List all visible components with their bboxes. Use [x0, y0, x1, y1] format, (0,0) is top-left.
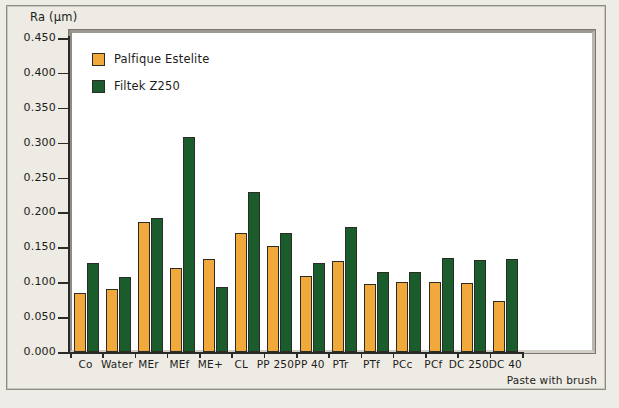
y-axis-tick-label: 0.400 — [4, 66, 56, 79]
y-axis-tick — [58, 317, 68, 319]
bar-group — [393, 38, 425, 352]
bar — [429, 282, 441, 352]
y-axis-tick — [58, 178, 68, 180]
y-axis-tick-label: 0.150 — [4, 240, 56, 253]
bar — [474, 260, 486, 352]
bar — [506, 259, 518, 352]
x-axis-category-label: PCc — [387, 358, 418, 376]
x-axis-caption: Paste with brush — [507, 374, 597, 386]
y-axis-title: Ra (μm) — [30, 10, 77, 24]
bar-group — [296, 38, 328, 352]
y-axis-tick-label: 0.300 — [4, 136, 56, 149]
legend-entry-0: Palfique Estelite — [92, 52, 209, 66]
bar — [138, 222, 150, 352]
y-axis-tick-label: 0.050 — [4, 310, 56, 323]
bar-group — [361, 38, 393, 352]
bar — [280, 233, 292, 352]
bar-group — [328, 38, 360, 352]
y-axis-tick — [58, 212, 68, 214]
bar — [332, 261, 344, 352]
bar — [409, 272, 421, 352]
x-axis-category-label: PTr — [325, 358, 356, 376]
y-axis-tick — [58, 38, 68, 40]
x-axis-category-label: PTf — [356, 358, 387, 376]
x-axis-category-label: Co — [70, 358, 101, 376]
legend-swatch-icon-palfique-estelite — [92, 53, 105, 66]
bar-group — [231, 38, 263, 352]
x-axis-category-label: PCf — [418, 358, 449, 376]
bar — [203, 259, 215, 352]
bar — [119, 277, 131, 352]
y-axis-tick-label: 0.350 — [4, 101, 56, 114]
bar — [364, 284, 376, 352]
bar — [248, 192, 260, 352]
legend-swatch-icon-filtek-z250 — [92, 80, 105, 93]
figure-container: Ra (μm) 0.4500.4000.3500.3000.2500.2000.… — [0, 0, 619, 408]
bar-group — [264, 38, 296, 352]
bar — [235, 233, 247, 352]
y-axis-tick — [58, 352, 68, 354]
bar — [377, 272, 389, 352]
bar — [461, 283, 473, 352]
bar — [267, 246, 279, 352]
x-axis-category-label: MEr — [133, 358, 164, 376]
y-axis-tick-label: 0.200 — [4, 205, 56, 218]
y-axis-tick — [58, 108, 68, 110]
x-axis-category-label: MEf — [164, 358, 195, 376]
bar — [183, 137, 195, 352]
bar — [396, 282, 408, 352]
legend-label-0: Palfique Estelite — [114, 52, 209, 66]
x-axis-category-label: PP 40 — [294, 358, 325, 376]
y-axis-tick — [58, 143, 68, 145]
x-axis-category-label: PP 250 — [257, 358, 294, 376]
legend-label-1: Filtek Z250 — [114, 79, 180, 93]
bar — [493, 301, 505, 352]
y-axis-tick — [58, 73, 68, 75]
bar-group — [425, 38, 457, 352]
y-axis-tick — [58, 282, 68, 284]
bar — [345, 227, 357, 352]
y-axis-tick-label: 0.250 — [4, 171, 56, 184]
bar-group — [457, 38, 489, 352]
legend-entry-1: Filtek Z250 — [92, 79, 209, 93]
bar — [216, 287, 228, 352]
y-axis-tick-label: 0.450 — [4, 31, 56, 44]
bar — [170, 268, 182, 352]
x-axis-category-label: CL — [226, 358, 257, 376]
bar — [74, 293, 86, 352]
bar — [87, 263, 99, 352]
bar — [151, 218, 163, 352]
bar-group — [490, 38, 522, 352]
y-axis-tick — [58, 247, 68, 249]
bar — [442, 258, 454, 352]
y-axis-tick-label: 0.100 — [4, 275, 56, 288]
x-axis-category-label: ME+ — [195, 358, 226, 376]
x-axis-category-labels: CoWaterMErMEfME+CLPP 250PP 40PTrPTfPCcPC… — [70, 358, 522, 376]
bar — [313, 263, 325, 352]
chart-legend: Palfique Estelite Filtek Z250 — [92, 52, 209, 106]
x-axis-tick — [522, 352, 524, 358]
y-axis-tick-label: 0.000 — [4, 345, 56, 358]
x-axis-category-label: DC 250 — [449, 358, 489, 376]
bar — [300, 276, 312, 352]
bar — [106, 289, 118, 352]
x-axis-category-label: Water — [101, 358, 133, 376]
